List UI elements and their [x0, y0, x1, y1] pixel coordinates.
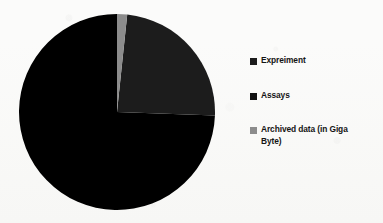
legend-item-archived-data[interactable]: Archived data (in Giga Byte)	[250, 124, 383, 147]
pie-chart-figure: Expreiment Assays Archived data (in Giga…	[0, 0, 383, 223]
chart-legend: Expreiment Assays Archived data (in Giga…	[250, 55, 383, 147]
square-marker-icon	[250, 127, 257, 134]
square-marker-icon	[250, 93, 257, 100]
legend-item-label: Archived data (in Giga Byte)	[261, 124, 348, 147]
legend-item-label: Assays	[261, 90, 290, 102]
pie-slice-assays[interactable]	[117, 15, 215, 116]
legend-item-assays[interactable]: Assays	[250, 90, 383, 102]
pie-chart-plot-area	[18, 13, 216, 211]
legend-item-label: Expreiment	[261, 55, 306, 67]
square-marker-icon	[250, 58, 257, 65]
pie-chart-svg	[18, 13, 216, 211]
legend-item-expreiment[interactable]: Expreiment	[250, 55, 383, 67]
